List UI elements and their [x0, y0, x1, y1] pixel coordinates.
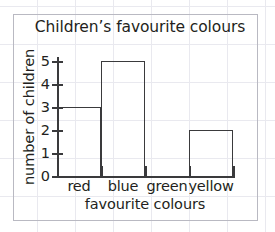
x-axis-title: favourite colours [40, 196, 250, 212]
x-tick-mark-2 [145, 166, 147, 177]
y-tick-label-0: 0 [30, 169, 50, 184]
y-tick-label-5: 5 [30, 54, 50, 69]
x-tick-mark-4 [233, 166, 235, 177]
bar-blue [101, 61, 145, 176]
y-tick-mark-4 [52, 84, 63, 86]
y-tick-label-2: 2 [30, 123, 50, 138]
y-tick-label-1: 1 [30, 146, 50, 161]
bar-red [57, 107, 101, 176]
y-tick-label-4: 4 [30, 77, 50, 92]
bar-chart: Children’s favourite colours number of c… [0, 0, 275, 232]
bar-yellow [189, 130, 233, 176]
y-tick-label-3: 3 [30, 100, 50, 115]
chart-title: Children’s favourite colours [28, 18, 252, 36]
y-tick-mark-5 [52, 61, 63, 63]
x-category-label-yellow: yellow [181, 178, 241, 194]
y-axis-title: number of children [21, 55, 37, 185]
